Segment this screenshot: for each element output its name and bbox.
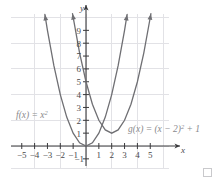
g-label-tail: + 1 bbox=[184, 124, 200, 134]
x-tick-label: 5 bbox=[148, 150, 153, 160]
y-tick-label: 2 bbox=[77, 116, 82, 126]
graph-figure: −5−4−3−2−112345−1123456789 y x f(x) = x2… bbox=[0, 0, 224, 191]
axes bbox=[11, 5, 180, 166]
f-function-annotation: f(x) = x2 bbox=[16, 109, 49, 122]
y-tick-label: 6 bbox=[77, 64, 82, 74]
x-tick-label: −5 bbox=[17, 150, 27, 160]
y-tick-label: 7 bbox=[77, 51, 82, 61]
x-tick-label: 3 bbox=[122, 150, 127, 160]
x-tick-label: 2 bbox=[109, 150, 114, 160]
x-tick-label: −4 bbox=[30, 150, 40, 160]
y-axis-label: y bbox=[79, 3, 84, 13]
x-tick-label: −2 bbox=[56, 150, 66, 160]
f-label-exponent: 2 bbox=[45, 109, 49, 116]
curve-arrowhead bbox=[71, 14, 76, 20]
x-tick-label: −3 bbox=[43, 150, 53, 160]
y-tick-label: 4 bbox=[77, 90, 82, 100]
x-tick-label: 1 bbox=[97, 150, 102, 160]
g-label-text: g(x) = (x − 2) bbox=[128, 124, 181, 135]
f-label-text: f(x) = x bbox=[16, 110, 45, 121]
y-tick-label: 9 bbox=[77, 26, 82, 36]
curve-arrowhead bbox=[148, 14, 153, 20]
coordinate-plane-svg: −5−4−3−2−112345−1123456789 y x f(x) = x2… bbox=[0, 0, 224, 191]
y-tick-label: −1 bbox=[74, 154, 84, 164]
y-tick-label: 3 bbox=[77, 103, 82, 113]
x-axis-label: x bbox=[180, 145, 185, 155]
g-function-annotation: g(x) = (x − 2)2 + 1 bbox=[128, 123, 200, 136]
y-tick-label: 5 bbox=[77, 77, 82, 87]
x-tick-label: 4 bbox=[135, 150, 140, 160]
corner-placeholder-square bbox=[203, 168, 212, 177]
y-tick-label: 8 bbox=[77, 39, 82, 49]
y-tick-label: 1 bbox=[77, 129, 82, 139]
